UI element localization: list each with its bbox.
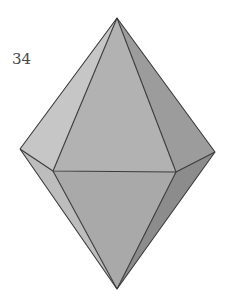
diagram-canvas: 34 (0, 0, 229, 303)
bipyramid-crystal-diagram (0, 0, 229, 303)
